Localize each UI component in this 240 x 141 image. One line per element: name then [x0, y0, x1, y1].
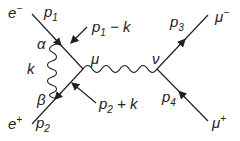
p1-minus-k-label: p1 − k [91, 18, 132, 38]
p3-label: p3 [169, 13, 184, 33]
muon-minus-label: μ− [214, 7, 229, 25]
nu-vertex-label: ν [152, 50, 160, 67]
feynman-diagram: e− p1 e+ p2 μ− p3 μ+ p4 p1 − k p2 + k k … [0, 0, 240, 141]
positron-label: e+ [8, 114, 22, 132]
mu-vertex-label: μ [90, 50, 99, 67]
k-label: k [27, 60, 36, 77]
p2-plus-k-label: p2 + k [98, 95, 139, 115]
p2-label: p2 [35, 114, 50, 134]
electron-label: e− [8, 3, 22, 21]
muon-plus-label: μ+ [211, 113, 226, 131]
momentum-arrow-p2-plus-k-icon [72, 83, 96, 103]
p1-label: p1 [43, 3, 58, 23]
virtual-photon-k-wavy-line [48, 44, 60, 98]
muon-minus-arrow-icon [179, 39, 185, 45]
beta-label: β [36, 91, 46, 108]
alpha-label: α [37, 35, 46, 52]
muon-plus-arrow-icon [179, 91, 185, 97]
p4-label: p4 [161, 88, 176, 108]
momentum-arrow-p1-minus-k-icon [71, 27, 87, 43]
